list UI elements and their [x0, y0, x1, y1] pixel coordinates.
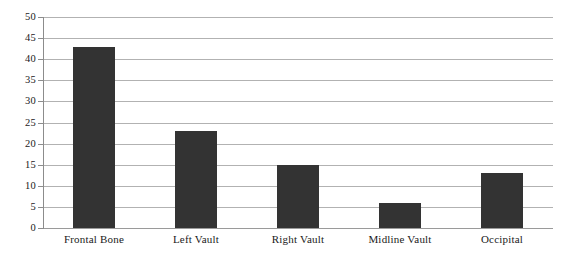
y-axis-tick-label: 50	[2, 12, 36, 22]
bar	[481, 173, 523, 228]
x-axis-category-label: Frontal Bone	[43, 232, 145, 246]
y-axis-tick-labels: 05101520253035404550	[0, 0, 36, 259]
y-axis-tick-10	[38, 186, 44, 187]
y-axis-tick-label: 20	[2, 139, 36, 149]
y-axis-tick-30	[38, 101, 44, 102]
y-axis-tick-label: 0	[2, 223, 36, 233]
y-axis-tick-45	[38, 38, 44, 39]
y-axis-tick-label: 15	[2, 160, 36, 170]
y-axis-tick-label: 40	[2, 54, 36, 64]
y-axis-tick-label: 30	[2, 96, 36, 106]
y-axis-tick-35	[38, 80, 44, 81]
x-axis-category-label: Left Vault	[145, 232, 247, 246]
y-axis-tick-40	[38, 59, 44, 60]
y-axis-tick-label: 10	[2, 181, 36, 191]
bar	[379, 203, 421, 228]
y-axis-tick-label: 25	[2, 118, 36, 128]
y-axis-tick-20	[38, 144, 44, 145]
y-axis-tick-0	[38, 228, 44, 229]
bars-layer	[43, 17, 553, 228]
bar	[73, 47, 115, 228]
bar-chart: 05101520253035404550 Frontal BoneLeft Va…	[0, 0, 563, 259]
x-axis-category-label: Right Vault	[247, 232, 349, 246]
y-axis-tick-label: 5	[2, 202, 36, 212]
y-axis-tick-label: 45	[2, 33, 36, 43]
x-axis-category-label: Midline Vault	[349, 232, 451, 246]
y-axis-tick-25	[38, 123, 44, 124]
bar	[175, 131, 217, 228]
y-axis-tick-50	[38, 17, 44, 18]
y-axis-tick-15	[38, 165, 44, 166]
x-axis-category-label: Occipital	[451, 232, 553, 246]
gridline-0	[43, 228, 553, 229]
y-axis-tick-5	[38, 207, 44, 208]
bar	[277, 165, 319, 228]
y-axis-tick-label: 35	[2, 75, 36, 85]
x-axis-category-labels: Frontal BoneLeft VaultRight VaultMidline…	[43, 232, 553, 254]
